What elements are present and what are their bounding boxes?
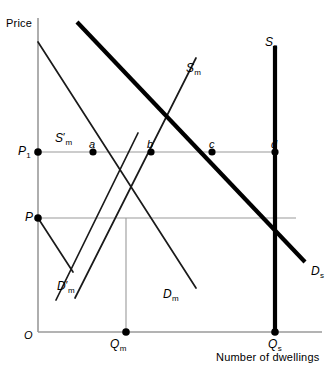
- curve-label-sm-prime: S′m: [55, 132, 72, 144]
- point-p1: [34, 148, 42, 156]
- diagram-canvas: [0, 0, 336, 370]
- curve-label-ss: Ss: [265, 36, 277, 48]
- y-axis-label: Price: [6, 18, 32, 29]
- thin-curves-group: [38, 42, 196, 300]
- curve-label-ds: Ds: [311, 265, 324, 277]
- price-label-p: P: [25, 211, 33, 223]
- curve-dm: [38, 42, 196, 288]
- curve-label-dm: Dm: [163, 288, 178, 300]
- point-p: [34, 214, 42, 222]
- curve-label-sm: Sm: [186, 62, 201, 74]
- point-qs: [271, 328, 279, 336]
- quantity-label-qs: Qs: [268, 338, 281, 350]
- x-axis-label: Number of dwellings: [216, 352, 319, 363]
- curve-dm-prime: [38, 218, 73, 272]
- point-label-a: a: [89, 139, 95, 150]
- point-label-c: c: [209, 139, 215, 150]
- point-label-d: d: [271, 139, 277, 150]
- curve-label-dm-prime: D′m: [57, 280, 74, 292]
- point-label-b: b: [147, 139, 153, 150]
- economics-diagram: Price Number of dwellings O S′m Sm Ss D′…: [0, 0, 336, 370]
- marked-points-group: [34, 148, 279, 336]
- axes-group: [38, 18, 322, 332]
- price-label-p1: P1: [18, 145, 30, 157]
- point-qm: [122, 328, 130, 336]
- origin-label: O: [24, 330, 33, 341]
- quantity-label-qm: Qm: [110, 338, 126, 350]
- curve-sm: [75, 58, 196, 298]
